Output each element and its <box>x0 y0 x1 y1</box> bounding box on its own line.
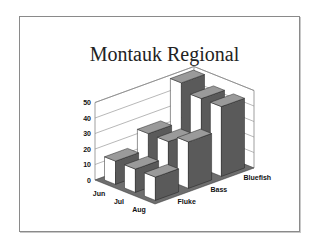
x-tick-label: Aug <box>132 206 146 214</box>
y-tick-label: 0 <box>87 177 91 184</box>
3d-column-chart: 01020304050JunJulAugFlukeBassBluefish <box>0 0 329 244</box>
depth-tick-label: Bass <box>211 186 228 193</box>
y-tick-label: 50 <box>83 99 91 106</box>
depth-tick-label: Fluke <box>178 198 196 205</box>
depth-tick-label: Bluefish <box>244 174 272 181</box>
bar-bluefish-aug <box>210 94 244 176</box>
y-tick-label: 20 <box>83 146 91 153</box>
y-tick-label: 30 <box>83 130 91 137</box>
y-tick-label: 40 <box>83 115 91 122</box>
x-tick-label: Jun <box>93 190 105 197</box>
x-tick-label: Jul <box>114 198 124 205</box>
y-tick-label: 10 <box>83 161 91 168</box>
bar-bass-aug <box>177 129 211 188</box>
